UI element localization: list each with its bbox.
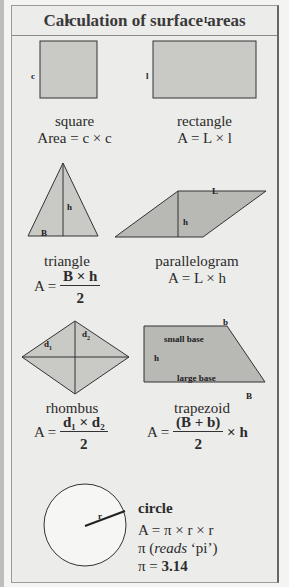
parallelogram-side-label: L [212,186,218,196]
formula-prefix: A = [147,424,169,440]
rectangle-name: rectangle [142,113,267,130]
square-left-label: c [31,71,35,81]
circle-shape [44,484,134,574]
pi-reads-italic: reads [154,540,187,556]
fraction: (B + b) 2 [173,414,223,453]
parallelogram-shape [115,191,275,241]
rhombus-shape [22,321,132,401]
circle-formula: A = π × r × r [138,522,213,539]
formula-prefix: A = [34,424,56,440]
trapezoid-small-base-label: small base [164,334,204,344]
rectangle-top-label: L [204,15,210,25]
circle-radius-label: r [98,511,102,521]
surface-areas-card: Calculation of surface areas c c square … [11,5,279,583]
fraction: B × h 2 [60,268,100,307]
square-formula: Area = c × c [17,130,132,147]
parallelogram-height-label: h [183,217,188,227]
pi-value: 3.14 [162,558,188,574]
fraction: d₁ × d₂ 2 [60,414,108,453]
denominator: 2 [80,432,88,453]
triangle-base-label: B [41,228,47,238]
pi-reads-suffix: ‘pi’) [187,540,217,556]
circle-name: circle [138,500,173,517]
pi-reads-prefix: π ( [138,540,154,556]
rectangle-left-label: l [146,71,149,81]
d2-subscript: 2 [87,335,90,341]
d1-subscript: 1 [49,345,52,351]
page-edge [0,0,4,587]
formula-prefix: A = [34,278,56,294]
formula-suffix: × h [227,424,248,440]
triangle-height-label: h [67,202,72,212]
trapezoid-large-base-label: large base [177,373,216,383]
square-top-label: c [67,15,71,25]
square-shape [40,21,100,81]
circle-pi-reads: π (reads ‘pi’) [138,540,218,557]
circle-pi-value: π = 3.14 [138,558,188,575]
numerator: B × h [60,268,100,286]
rectangle-formula: A = L × l [142,130,267,147]
denominator: 2 [76,286,84,307]
numerator: d₁ × d₂ [60,414,108,432]
triangle-formula: A = B × h 2 [34,268,100,307]
parallelogram-name: parallelogram [127,253,267,270]
pi-value-prefix: π = [138,558,162,574]
numerator: (B + b) [173,414,223,432]
rhombus-d1-label: d1 [44,339,52,351]
trapezoid-formula: A = (B + b) 2 × h [147,414,248,453]
denominator: 2 [194,432,202,453]
square-name: square [17,113,132,130]
triangle-shape [28,163,103,243]
trapezoid-height-label: h [154,353,159,363]
trapezoid-small-base-letter: b [223,317,228,327]
rhombus-d2-label: d2 [82,329,90,341]
rhombus-formula: A = d₁ × d₂ 2 [34,414,108,453]
parallelogram-formula: A = L × h [127,270,267,287]
rectangle-shape [153,21,263,81]
